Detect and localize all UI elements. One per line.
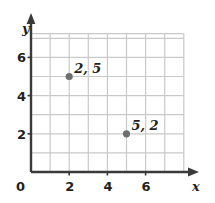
y-axis-tick-label: 4 xyxy=(17,90,26,103)
data-point-markers xyxy=(66,73,131,137)
data-point-label: 2, 5 xyxy=(74,62,101,75)
x-axis-tick-label: 4 xyxy=(103,180,112,193)
plot-canvas xyxy=(0,0,215,203)
y-axis-label: y xyxy=(22,22,30,35)
y-axis-tick-label: 2 xyxy=(17,128,26,141)
data-point-marker xyxy=(123,130,130,137)
axis-lines xyxy=(27,13,199,176)
x-axis-arrowhead xyxy=(188,168,199,177)
grid-lines xyxy=(31,34,184,172)
coordinate-plane-figure: 0246246 y x 2, 55, 2 xyxy=(0,0,215,203)
x-axis-tick-label: 6 xyxy=(142,180,151,193)
y-axis-tick-label: 6 xyxy=(17,51,26,64)
data-point-marker xyxy=(66,73,73,80)
origin-tick-label: 0 xyxy=(16,180,25,193)
x-axis-label: x xyxy=(192,180,200,193)
data-point-label: 5, 2 xyxy=(132,119,159,132)
x-axis-tick-label: 2 xyxy=(65,180,74,193)
